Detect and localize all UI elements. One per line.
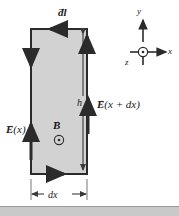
magnetic-field-label: →B [53, 120, 60, 131]
axis-label-x: x [168, 47, 172, 56]
width-dimension-line [31, 179, 87, 200]
field-right-argument: (x + dx) [104, 98, 140, 110]
vector-arrow-icon: → [52, 117, 59, 126]
field-right-label: →E(x + dx) [97, 99, 140, 110]
axis-label-z: z [125, 58, 129, 67]
arrow-layer [0, 0, 179, 216]
physics-figure: →dl h →E(x + dx) →E(x) →B dx y x z [0, 0, 179, 216]
line-element-label: →dl [58, 7, 67, 18]
bottom-band [0, 206, 179, 216]
vector-arrow-icon: → [5, 121, 12, 130]
height-label: h [77, 98, 82, 108]
vector-arrow-icon: → [57, 4, 66, 13]
vector-arrow-icon: → [96, 96, 103, 105]
field-left-label: →E(x) [6, 124, 26, 135]
width-label: dx [48, 190, 57, 200]
coordinate-axes [130, 20, 166, 65]
axis-label-y: y [137, 7, 141, 16]
field-left-argument: (x) [13, 123, 25, 135]
b-field-out-of-page-icon [54, 135, 63, 144]
